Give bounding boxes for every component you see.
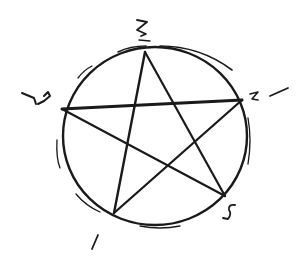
enclosing-circle — [57, 46, 250, 228]
label-5-glyph — [223, 205, 235, 219]
pentagram-star — [62, 52, 242, 213]
label-4-glyph — [22, 92, 50, 104]
label-3-glyph — [250, 92, 258, 100]
label-1-glyph — [92, 235, 98, 249]
label-2-glyph — [137, 20, 147, 36]
stroke-4-to-3 — [62, 100, 242, 109]
pentagram-diagram — [0, 0, 304, 264]
